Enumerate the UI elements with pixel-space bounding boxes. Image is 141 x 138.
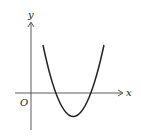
origin-label: O: [20, 97, 28, 108]
parabola-curve: [43, 45, 104, 117]
x-axis-label: x: [126, 87, 132, 98]
y-axis-label: y: [27, 9, 34, 20]
y-axis: [28, 22, 34, 130]
parabola-diagram: x y O: [0, 0, 141, 138]
